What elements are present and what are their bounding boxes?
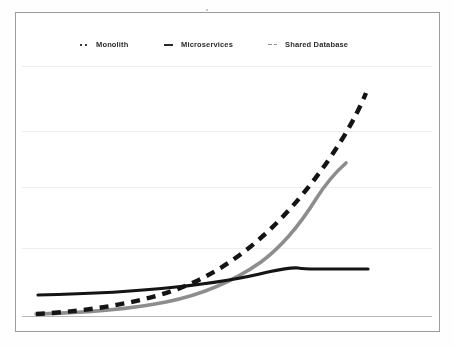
scan-artifact-speck xyxy=(206,9,208,11)
chart-frame: Monolith Microservices Shared Database xyxy=(15,12,440,332)
legend-item-monolith[interactable]: Monolith xyxy=(79,40,128,49)
legend-item-shared-database[interactable]: Shared Database xyxy=(268,40,348,49)
legend-label-monolith: Monolith xyxy=(96,40,128,49)
chart-svg xyxy=(16,13,439,331)
scanned-page: Monolith Microservices Shared Database xyxy=(0,0,454,347)
legend-label-shared-database: Shared Database xyxy=(285,40,348,49)
legend-swatch-dotted-icon xyxy=(79,43,91,46)
legend-swatch-dashed-icon xyxy=(164,43,176,46)
series-line-shared-database xyxy=(36,163,346,314)
series-line-microservices xyxy=(36,93,366,314)
legend-label-microservices: Microservices xyxy=(181,40,233,49)
chart-plot-area xyxy=(16,13,439,331)
legend-item-microservices[interactable]: Microservices xyxy=(164,40,233,49)
legend-swatch-gray-icon xyxy=(268,43,280,46)
chart-legend: Monolith Microservices Shared Database xyxy=(16,40,441,56)
